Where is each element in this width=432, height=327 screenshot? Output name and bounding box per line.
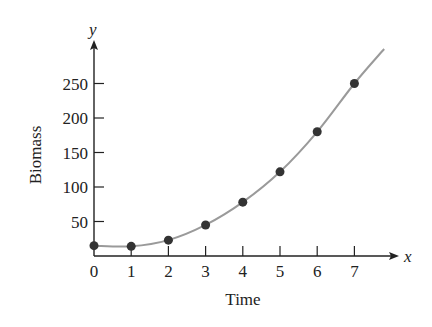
fitted-curve — [94, 49, 384, 247]
y-tick-label: 200 — [63, 109, 89, 128]
x-tick-label: 2 — [164, 262, 173, 281]
y-tick-label: 150 — [63, 144, 89, 163]
data-point — [238, 198, 247, 207]
x-axis-variable: x — [403, 247, 412, 266]
x-tick-label: 4 — [239, 262, 248, 281]
x-tick-label: 0 — [90, 262, 99, 281]
data-point — [127, 242, 136, 251]
data-points — [90, 79, 359, 251]
y-tick-label: 50 — [71, 213, 88, 232]
y-axis-variable: y — [87, 20, 97, 39]
axes: 0123456750100150200250 — [63, 40, 400, 281]
y-axis-title: Biomass — [26, 126, 45, 185]
data-point — [201, 220, 210, 229]
data-point — [350, 79, 359, 88]
data-point — [164, 236, 173, 245]
x-tick-label: 5 — [276, 262, 285, 281]
data-point — [90, 241, 99, 250]
x-axis-title: Time — [225, 290, 260, 309]
x-tick-label: 3 — [201, 262, 210, 281]
biomass-chart: 0123456750100150200250 Time Biomass x y — [0, 0, 432, 327]
x-tick-label: 6 — [313, 262, 322, 281]
data-point — [313, 127, 322, 136]
x-tick-label: 7 — [350, 262, 359, 281]
fitted-curve-line — [94, 49, 384, 247]
y-tick-label: 100 — [63, 178, 89, 197]
data-point — [276, 167, 285, 176]
x-tick-label: 1 — [127, 262, 136, 281]
y-tick-label: 250 — [63, 75, 89, 94]
